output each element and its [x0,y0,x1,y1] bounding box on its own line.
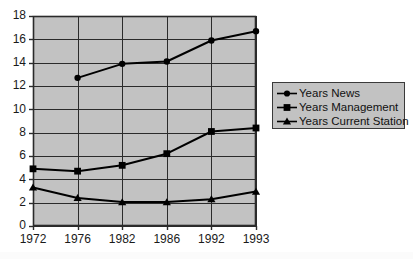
y-tick-label: 16 [13,32,27,46]
y-tick-label: 14 [13,55,27,69]
data-point-marker [119,162,126,169]
legend-key-diamond-icon [276,87,298,100]
data-point-marker [119,61,125,67]
y-tick-label: 6 [19,148,26,162]
legend-label-years-current-station: Years Current Station [299,115,409,128]
x-tick-label: 1976 [64,232,91,246]
y-tick-label: 2 [19,195,26,209]
y-tick-label: 10 [13,102,27,116]
page-edge-artifact [0,252,413,259]
legend-label-years-news: Years News [299,87,360,100]
x-tick-label: 1982 [109,232,136,246]
x-tick-label: 1972 [20,232,47,246]
legend-label-years-management: Years Management [299,101,398,114]
y-axis-tick-labels: 024681012141618 [13,8,27,232]
plot-canvas: 024681012141618 197219761982198619921993 [0,0,413,259]
data-point-marker [253,28,259,34]
data-point-marker [30,165,37,172]
data-point-marker [253,125,260,132]
y-tick-label: 18 [13,8,27,22]
x-tick-label: 1992 [198,232,225,246]
data-point-marker [163,150,170,157]
legend-item-years-news: Years News [276,86,400,100]
x-tick-label: 1993 [243,232,270,246]
y-tick-label: 4 [19,172,26,186]
data-point-marker [208,37,214,43]
legend-key-square-icon [276,101,298,114]
legend-key-triangle-icon [276,115,298,128]
x-axis-tick-labels: 197219761982198619921993 [20,232,270,246]
data-point-marker [208,128,215,135]
data-point-marker [74,75,80,81]
y-tick-label: 12 [13,78,27,92]
y-tick-label: 0 [19,218,26,232]
data-point-marker [164,58,170,64]
legend-item-years-current-station: Years Current Station [276,114,400,128]
chart-legend: Years News Years Management Years Curren… [272,82,405,129]
line-chart-figure: 024681012141618 197219761982198619921993… [0,0,413,259]
legend-item-years-management: Years Management [276,100,400,114]
y-tick-label: 8 [19,125,26,139]
x-tick-label: 1986 [153,232,180,246]
data-point-marker [74,168,81,175]
